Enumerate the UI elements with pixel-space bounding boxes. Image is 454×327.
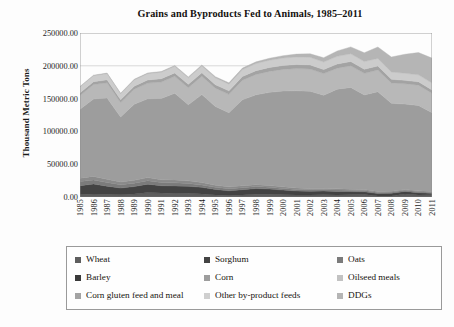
x-axis-tick-label: 1995	[211, 199, 220, 216]
legend-item-label: Corn gluten feed and meal	[86, 291, 183, 300]
legend-item[interactable]: Wheat	[75, 251, 110, 269]
x-axis-tick-label: 1986	[90, 199, 99, 216]
chart-legend: WheatSorghumOatsBarleyCornOilseed mealsC…	[66, 246, 442, 310]
x-axis-tick-label: 2008	[387, 199, 396, 216]
x-axis-tick-label: 1996	[225, 199, 234, 216]
legend-swatch-icon	[75, 293, 81, 299]
x-axis-tick-label: 2011	[428, 199, 437, 216]
legend-item[interactable]: Barley	[75, 269, 111, 287]
x-axis-tick-label: 1987	[103, 199, 112, 216]
x-axis-tick-label: 2002	[306, 199, 315, 216]
x-axis-tick-label: 1991	[157, 199, 166, 216]
legend-item[interactable]: Other by-product feeds	[204, 287, 300, 305]
legend-item-label: Sorghum	[215, 255, 249, 264]
x-axis-tick-label: 1985	[76, 199, 85, 216]
legend-item[interactable]: DDGs	[337, 287, 371, 305]
legend-item-label: Corn	[215, 273, 233, 282]
legend-swatch-icon	[75, 275, 81, 281]
legend-item[interactable]: Corn	[204, 269, 233, 287]
legend-item-label: Oats	[348, 255, 365, 264]
legend-swatch-icon	[204, 275, 210, 281]
y-axis-tick-label: 100000.00	[4, 127, 78, 136]
area-series-group	[80, 47, 432, 197]
x-axis-tick-label: 1994	[198, 199, 207, 216]
legend-item-label: Oilseed meals	[348, 273, 400, 282]
y-axis-tick-label: 0.00	[4, 193, 78, 202]
legend-swatch-icon	[75, 257, 81, 263]
x-axis-tick-label: 2000	[279, 199, 288, 216]
chart-title: Grains and Byproducts Fed to Animals, 19…	[60, 8, 440, 19]
legend-item-label: Wheat	[86, 255, 110, 264]
legend-swatch-icon	[204, 257, 210, 263]
plot-area	[80, 33, 432, 197]
x-axis-ticks: 1985198619871988198919901991199219931994…	[80, 199, 432, 241]
x-axis-tick-label: 2005	[347, 199, 356, 216]
x-axis-tick-label: 2004	[333, 199, 342, 216]
x-axis-tick-label: 1990	[144, 199, 153, 216]
x-axis-tick-label: 2010	[414, 199, 423, 216]
x-axis-tick-label: 1999	[266, 199, 275, 216]
x-axis-tick-label: 2007	[374, 199, 383, 216]
y-axis-tick-label: 200000.00	[4, 61, 78, 70]
chart-figure: Grains and Byproducts Fed to Animals, 19…	[0, 0, 454, 327]
x-axis-tick-label: 1997	[238, 199, 247, 216]
x-axis-tick-label: 1998	[252, 199, 261, 216]
legend-item[interactable]: Corn gluten feed and meal	[75, 287, 183, 305]
x-axis-tick-label: 2001	[293, 199, 302, 216]
y-axis-tick-label: 250000.00	[4, 29, 78, 38]
legend-swatch-icon	[204, 293, 210, 299]
x-axis-tick-label: 1992	[171, 199, 180, 216]
x-axis-tick-label: 2006	[360, 199, 369, 216]
x-axis-tick-label: 1989	[130, 199, 139, 216]
legend-item-label: DDGs	[348, 291, 371, 300]
y-axis-ticks: 250000.00200000.00150000.00100000.005000…	[0, 33, 78, 197]
y-axis-tick-label: 150000.00	[4, 94, 78, 103]
stacked-area-plot	[80, 33, 432, 197]
legend-item[interactable]: Oats	[337, 251, 365, 269]
legend-item[interactable]: Sorghum	[204, 251, 249, 269]
legend-item-label: Barley	[86, 273, 111, 282]
x-axis-tick-label: 1988	[117, 199, 126, 216]
x-axis-tick-label: 2009	[401, 199, 410, 216]
x-axis-tick-label: 2003	[320, 199, 329, 216]
legend-item-label: Other by-product feeds	[215, 291, 300, 300]
legend-swatch-icon	[337, 275, 343, 281]
x-axis-tick-label: 1993	[184, 199, 193, 216]
legend-swatch-icon	[337, 257, 343, 263]
legend-item[interactable]: Oilseed meals	[337, 269, 400, 287]
legend-swatch-icon	[337, 293, 343, 299]
y-axis-tick-label: 50000.00	[4, 160, 78, 169]
